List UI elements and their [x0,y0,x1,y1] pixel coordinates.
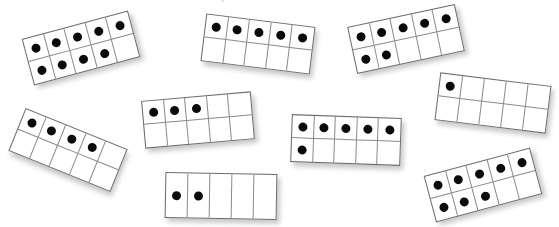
frame-cell [187,119,211,144]
ten-frame-frame-1 [434,72,551,133]
frame-cell [457,99,482,125]
counter-dot-icon [385,125,394,134]
frame-cell [185,96,209,121]
counter-dot-icon [516,157,527,168]
counter-dot-icon [46,125,58,137]
counter-dot-icon [86,141,98,153]
counter-dot-icon [453,174,464,185]
counter-dot-icon [445,81,455,91]
counter-dot-icon [377,27,388,38]
frame-cell [204,15,228,40]
frame-cell [144,123,168,148]
counter-dot-icon [254,27,264,37]
frame-cell [188,173,211,217]
frame-cell [166,173,189,217]
frame-cell [287,48,311,73]
frame-cell [335,117,357,141]
counter-dot-icon [480,191,491,202]
counter-dot-icon [363,124,372,133]
counter-dot-icon [440,13,451,24]
frame-cell [202,37,226,62]
ten-frame-frame-2 [165,172,278,220]
frame-cell [291,138,313,162]
frame-cell [164,98,188,123]
frame-cell [232,174,255,218]
frame-cell [209,117,233,142]
counter-dot-icon [398,22,409,33]
ten-frame-frame-8 [424,148,543,223]
frame-cell [504,82,529,108]
frame-cell [210,174,233,218]
frame-cell [230,115,254,140]
frame-cell [438,28,464,55]
counter-dot-icon [341,123,350,132]
counter-dot-icon [459,196,470,207]
frame-cell [292,115,314,139]
counter-dot-icon [66,133,78,145]
frame-cell [523,107,548,133]
frame-cell [290,25,314,50]
counter-dot-icon [192,103,202,113]
frame-cell [501,104,526,130]
counter-dot-icon [93,25,104,36]
frame-cell [357,117,379,141]
ten-frame-frame-9 [22,11,141,86]
frame-cell [334,140,356,164]
frame-cell [460,76,485,102]
frame-cell [313,139,335,163]
counter-dot-icon [211,22,221,32]
counter-dot-icon [320,123,329,132]
ten-frame-frame-5 [200,13,315,74]
ten-frame-frame-4 [8,108,127,192]
frame-cell [526,84,551,110]
counter-dot-icon [26,117,38,129]
ten-frame-frame-6 [290,114,402,166]
frame-cell [247,20,271,45]
frame-cell [228,92,252,117]
ten-frame-frame-3 [141,91,255,148]
frame-cell [207,94,231,119]
counter-dot-icon [432,179,443,190]
frame-cell [438,73,463,99]
counter-dot-icon [51,37,62,48]
frame-cell [142,100,166,125]
counter-dot-icon [381,50,392,61]
counter-dot-icon [297,145,306,154]
counter-dot-icon [30,42,41,53]
counter-dot-icon [149,107,159,117]
counter-dot-icon [419,18,430,29]
frame-cell [166,121,190,146]
counter-dot-icon [233,24,243,34]
counter-dot-icon [57,59,68,70]
frame-cell [436,96,461,122]
frame-cell [269,22,293,47]
counter-dot-icon [36,65,47,76]
counter-dot-icon [438,202,449,213]
counter-dot-icon [114,20,125,31]
frame-cell [314,116,336,140]
counter-dot-icon [275,30,285,40]
frame-cell [112,34,139,62]
frame-cell [254,175,277,219]
frame-cell [378,141,400,165]
counter-dot-icon [172,191,181,200]
frame-cell [378,118,400,142]
frame-cell [356,140,378,164]
frame-cell [266,45,290,70]
cropped-sparkle-icon: ✧ [216,0,230,4]
frame-cell [223,40,247,65]
frame-cell [226,17,250,42]
frame-cell [244,43,268,68]
counter-dot-icon [297,32,307,42]
counter-dot-icon [355,31,366,42]
counter-dot-icon [474,168,485,179]
counter-dot-icon [170,105,180,115]
counter-dot-icon [99,48,110,59]
counter-dot-icon [360,54,371,65]
frame-cell [482,79,507,105]
counter-dot-icon [194,191,203,200]
counter-dot-icon [495,162,506,173]
frame-cell [514,171,541,199]
ten-frame-frame-7 [347,4,465,74]
frame-cell [479,102,504,128]
